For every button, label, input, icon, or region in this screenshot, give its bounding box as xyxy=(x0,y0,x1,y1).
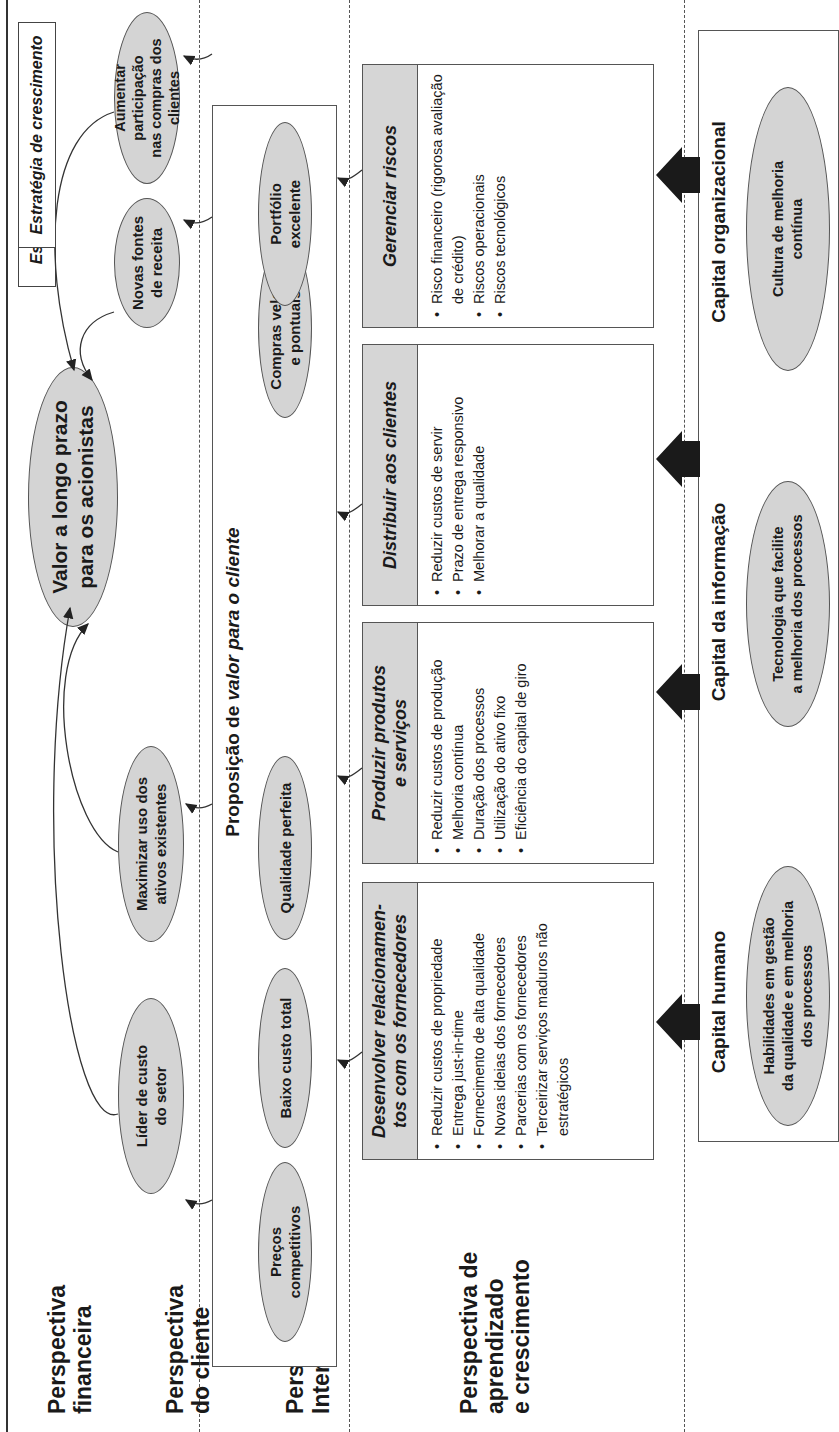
growth-strategy-label: Estratégia de crescimento xyxy=(18,22,56,248)
strategy-map: Perspectiva financeira Perspectiva do cl… xyxy=(0,0,839,1432)
ellipse-excellent-portfolio: Portfólioexcelente xyxy=(258,122,312,306)
ellipse-increase-customer-share: Aumentar participaçãonas compras dos cli… xyxy=(114,12,180,184)
thick-arrows xyxy=(656,147,700,1050)
connector-arrows xyxy=(0,0,839,1432)
